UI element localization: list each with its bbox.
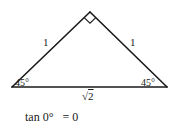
right-angle-label: 45° — [141, 77, 155, 88]
left-leg-line — [12, 12, 90, 87]
right-leg-line — [90, 12, 167, 87]
left-angle-label: 45° — [15, 77, 29, 88]
right-angle-marker-icon — [84, 18, 96, 24]
formula-lhs: tan 0° — [25, 110, 53, 124]
sqrt-radicand: 2 — [88, 90, 94, 102]
left-leg-label: 1 — [43, 37, 49, 48]
formula-rhs: = 0 — [62, 110, 78, 124]
tangent-formula: tan 0° = 0 — [25, 111, 78, 123]
triangle-diagram — [0, 0, 173, 128]
right-leg-label: 1 — [130, 37, 136, 48]
hypotenuse-label: √2 — [82, 91, 94, 102]
